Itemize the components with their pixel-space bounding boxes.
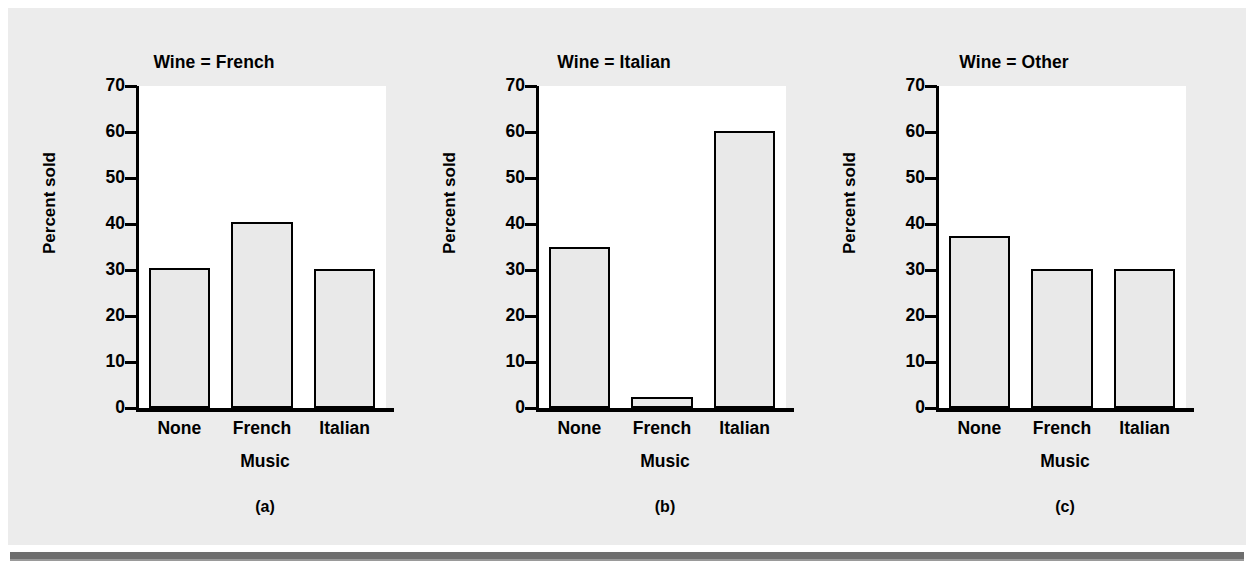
panel-title: Wine = Other xyxy=(808,52,1220,73)
y-tick-label: 50 xyxy=(865,167,925,188)
y-tick-mark xyxy=(525,269,537,272)
y-axis-line xyxy=(136,86,139,408)
chart-panel-b: Wine = Italian Percent sold 010203040506… xyxy=(408,8,820,545)
y-tick-mark xyxy=(925,269,937,272)
x-tick-label: Italian xyxy=(303,418,386,439)
bar xyxy=(1031,269,1092,408)
y-tick-label: 50 xyxy=(65,167,125,188)
x-tick-label: None xyxy=(138,418,221,439)
x-tick-label: Italian xyxy=(1103,418,1186,439)
y-tick-mark xyxy=(125,407,137,410)
y-tick-label: 10 xyxy=(865,351,925,372)
y-tick-mark xyxy=(525,177,537,180)
y-tick-label: 20 xyxy=(465,305,525,326)
x-axis-line xyxy=(536,408,794,412)
y-tick-mark xyxy=(525,407,537,410)
x-tick-label: Italian xyxy=(703,418,786,439)
y-tick-label: 50 xyxy=(465,167,525,188)
y-tick-label: 10 xyxy=(65,351,125,372)
bar xyxy=(631,397,692,409)
y-tick-mark xyxy=(925,85,937,88)
y-tick-mark xyxy=(125,315,137,318)
x-tick-label: None xyxy=(938,418,1021,439)
y-tick-mark xyxy=(525,85,537,88)
panel-letter: (c) xyxy=(936,498,1194,516)
y-tick-mark xyxy=(525,223,537,226)
y-axis-title: Percent sold xyxy=(840,123,860,283)
y-tick-label: 70 xyxy=(65,75,125,96)
y-axis-line xyxy=(536,86,539,408)
y-tick-label: 40 xyxy=(65,213,125,234)
x-axis-title: Music xyxy=(136,451,394,472)
y-tick-mark xyxy=(925,223,937,226)
y-tick-label: 20 xyxy=(65,305,125,326)
bar xyxy=(549,247,610,408)
x-axis-title: Music xyxy=(536,451,794,472)
y-tick-mark xyxy=(125,131,137,134)
y-tick-mark xyxy=(525,131,537,134)
y-tick-label: 40 xyxy=(465,213,525,234)
panel-title: Wine = French xyxy=(8,52,420,73)
y-tick-mark xyxy=(525,361,537,364)
figure-bottom-rule xyxy=(10,552,1244,561)
bar xyxy=(714,131,775,408)
chart-panel-c: Wine = Other Percent sold 01020304050607… xyxy=(808,8,1220,545)
y-tick-label: 30 xyxy=(465,259,525,280)
y-tick-mark xyxy=(925,315,937,318)
y-tick-mark xyxy=(125,223,137,226)
x-axis-line xyxy=(936,408,1194,412)
panel-title: Wine = Italian xyxy=(408,52,820,73)
figure-container: Wine = French Percent sold 0102030405060… xyxy=(8,8,1246,545)
x-axis-title: Music xyxy=(936,451,1194,472)
y-tick-label: 70 xyxy=(465,75,525,96)
y-axis-title: Percent sold xyxy=(40,123,60,283)
bar xyxy=(1114,269,1175,408)
chart-panel-a: Wine = French Percent sold 0102030405060… xyxy=(8,8,420,545)
y-tick-label: 70 xyxy=(865,75,925,96)
bar xyxy=(949,236,1010,409)
y-tick-label: 30 xyxy=(65,259,125,280)
panel-letter: (a) xyxy=(136,498,394,516)
x-tick-label: French xyxy=(1021,418,1104,439)
x-axis-line xyxy=(136,408,394,412)
y-tick-label: 60 xyxy=(465,121,525,142)
y-tick-label: 30 xyxy=(865,259,925,280)
y-tick-mark xyxy=(125,269,137,272)
y-tick-mark xyxy=(125,361,137,364)
y-tick-mark xyxy=(925,131,937,134)
bar xyxy=(314,269,375,408)
y-tick-label: 60 xyxy=(865,121,925,142)
bar xyxy=(231,222,292,408)
x-tick-label: French xyxy=(621,418,704,439)
x-tick-label: French xyxy=(221,418,304,439)
y-tick-label: 20 xyxy=(865,305,925,326)
y-tick-mark xyxy=(925,177,937,180)
y-tick-mark xyxy=(125,85,137,88)
y-tick-mark xyxy=(525,315,537,318)
y-tick-label: 0 xyxy=(65,397,125,418)
y-axis-title: Percent sold xyxy=(440,123,460,283)
y-tick-label: 0 xyxy=(865,397,925,418)
y-tick-mark xyxy=(925,407,937,410)
panel-letter: (b) xyxy=(536,498,794,516)
y-tick-mark xyxy=(925,361,937,364)
y-axis-line xyxy=(936,86,939,408)
y-tick-label: 10 xyxy=(465,351,525,372)
x-tick-label: None xyxy=(538,418,621,439)
bar xyxy=(149,268,210,408)
y-tick-label: 0 xyxy=(465,397,525,418)
y-tick-label: 60 xyxy=(65,121,125,142)
y-tick-mark xyxy=(125,177,137,180)
y-tick-label: 40 xyxy=(865,213,925,234)
